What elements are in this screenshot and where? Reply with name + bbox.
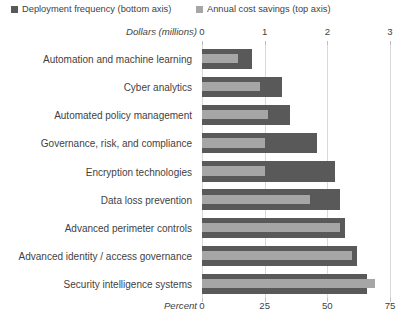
- bottom-axis-tick-labels: 0255075: [0, 300, 400, 314]
- chart-legend: Deployment frequency (bottom axis) Annua…: [0, 2, 400, 22]
- bar-group: [202, 242, 390, 270]
- bottom-axis-tick-0: 0: [199, 300, 204, 311]
- bar-annual-cost-savings: [202, 251, 352, 260]
- legend-label-deployment-frequency: Deployment frequency (bottom axis): [22, 4, 171, 14]
- bar-group: [202, 186, 390, 214]
- bottom-axis-tick-75: 75: [385, 300, 396, 311]
- category-label: Automated policy management: [54, 110, 192, 121]
- bar-annual-cost-savings: [202, 223, 340, 232]
- bar-group: [202, 73, 390, 101]
- plot-area: [202, 45, 390, 298]
- legend-swatch-deployment-frequency: [11, 6, 18, 13]
- legend-item-deployment-frequency: Deployment frequency (bottom axis): [11, 4, 171, 14]
- bar-annual-cost-savings: [202, 82, 260, 91]
- category-label: Data loss prevention: [101, 194, 192, 205]
- bar-annual-cost-savings: [202, 54, 238, 63]
- top-axis-tick-1: 1: [262, 26, 267, 37]
- bar-group: [202, 214, 390, 242]
- bottom-axis-tick-25: 25: [259, 300, 270, 311]
- category-label: Advanced perimeter controls: [65, 222, 192, 233]
- bar-group: [202, 101, 390, 129]
- category-label: Security intelligence systems: [64, 278, 192, 289]
- category-label: Automation and machine learning: [43, 54, 192, 65]
- top-axis-tick-2: 2: [325, 26, 330, 37]
- bar-annual-cost-savings: [202, 110, 268, 119]
- top-axis-tick-labels: 0123: [0, 26, 400, 40]
- bar-annual-cost-savings: [202, 279, 375, 288]
- top-axis-tick-3: 3: [387, 26, 392, 37]
- category-axis-labels: Automation and machine learningCyber ana…: [0, 45, 196, 298]
- legend-item-annual-cost-savings: Annual cost savings (top axis): [196, 4, 331, 14]
- bar-annual-cost-savings: [202, 138, 265, 147]
- top-axis-tick-0: 0: [199, 26, 204, 37]
- bar-group: [202, 45, 390, 73]
- bar-group: [202, 157, 390, 185]
- category-label: Encryption technologies: [86, 166, 192, 177]
- bar-group: [202, 270, 390, 298]
- bar-annual-cost-savings: [202, 195, 310, 204]
- gridline: [390, 45, 391, 298]
- category-label: Advanced identity / access governance: [19, 250, 192, 261]
- bottom-axis-tick-50: 50: [322, 300, 333, 311]
- bar-annual-cost-savings: [202, 166, 265, 175]
- category-label: Governance, risk, and compliance: [41, 138, 192, 149]
- legend-swatch-annual-cost-savings: [196, 6, 203, 13]
- legend-label-annual-cost-savings: Annual cost savings (top axis): [207, 4, 331, 14]
- top-axis-tick-mark: [390, 41, 391, 45]
- bar-group: [202, 129, 390, 157]
- category-label: Cyber analytics: [124, 82, 192, 93]
